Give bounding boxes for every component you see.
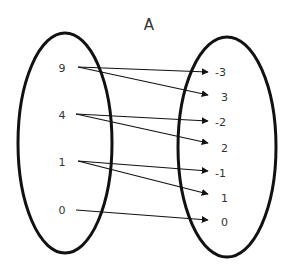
codomain-element: -3 [215, 66, 226, 79]
arrow-4-to-neg2 [76, 114, 208, 121]
codomain-element: 0 [221, 216, 228, 229]
codomain-element: -1 [215, 167, 226, 180]
codomain-element: 3 [221, 91, 228, 104]
domain-element: 0 [59, 204, 66, 217]
domain-element: 1 [59, 156, 66, 169]
domain-labels: 9 4 1 0 [59, 62, 66, 217]
mapping-arrows [76, 67, 208, 220]
domain-element: 9 [59, 62, 66, 75]
domain-element: 4 [59, 109, 66, 122]
diagram-title: A [144, 16, 155, 34]
arrow-4-to-2 [76, 114, 208, 143]
codomain-element: 2 [221, 142, 228, 155]
mapping-diagram: A 9 4 1 0 -3 3 -2 2 -1 1 0 [0, 0, 288, 264]
codomain-element: 1 [221, 192, 228, 205]
codomain-element: -2 [215, 116, 226, 129]
codomain-labels: -3 3 -2 2 -1 1 0 [215, 66, 228, 229]
